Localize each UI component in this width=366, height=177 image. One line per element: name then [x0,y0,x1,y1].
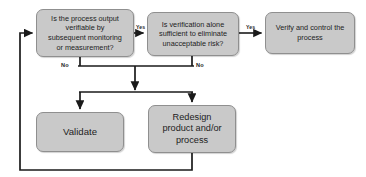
edge-label-yes-verification-sufficient: Yes [246,24,255,30]
node-label: Verify and control the process [273,23,348,42]
node-redesign-product-and-or-process[interactable]: Redesign product and/or process [148,105,236,153]
node-label: Validate [60,126,100,138]
edge-label-no-verification-sufficient: No [196,62,204,68]
node-validate[interactable]: Validate [36,112,124,152]
node-label: Is the process output verifiable by subs… [45,14,125,52]
node-verify-and-control-the-process[interactable]: Verify and control the process [265,12,355,54]
node-is-process-output-verifiable[interactable]: Is the process output verifiable by subs… [36,9,134,57]
node-label: Is verification alone sufficient to elim… [156,20,230,49]
flowchart-canvas: Is the process output verifiable by subs… [0,0,366,177]
edge-label-no-verifiable: No [61,62,69,68]
edge-label-yes-verifiable: Yes [136,24,145,30]
node-is-verification-alone-sufficient[interactable]: Is verification alone sufficient to elim… [147,12,239,56]
node-label: Redesign product and/or process [159,112,224,147]
